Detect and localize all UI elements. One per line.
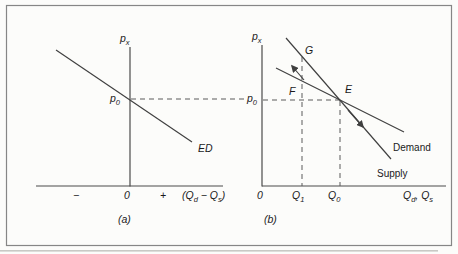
x-negative-label: − bbox=[73, 189, 79, 201]
textbook-figure: px p0 − 0 + (Qd − Qs) ED (a) px p0 G F E… bbox=[0, 0, 458, 254]
panel-a-p0-label: p0 bbox=[109, 92, 121, 107]
panel-a-origin-label: 0 bbox=[124, 189, 130, 201]
demand-curve-label: Demand bbox=[393, 142, 431, 153]
q1-tick-label: Q1 bbox=[292, 189, 304, 204]
panel-b-origin-label: 0 bbox=[257, 189, 263, 201]
panel-b-p0-label: p0 bbox=[246, 92, 258, 107]
point-g-label: G bbox=[305, 44, 313, 56]
figure-canvas: px p0 − 0 + (Qd − Qs) ED (a) px p0 G F E… bbox=[0, 0, 458, 254]
panel-b-y-axis-label: px bbox=[251, 30, 262, 45]
downward-adjustment-arrow bbox=[348, 110, 363, 127]
panel-b: px p0 G F E Demand Supply 0 Q1 Q0 Qd, Qs… bbox=[246, 30, 446, 225]
panel-a-y-axis-label: px bbox=[119, 32, 130, 47]
ed-curve-label: ED bbox=[198, 142, 213, 154]
excess-demand-curve bbox=[56, 50, 192, 142]
point-e-label: E bbox=[345, 83, 353, 95]
figure-border bbox=[7, 6, 452, 246]
q0-tick-label: Q0 bbox=[328, 189, 341, 204]
panel-a-x-axis-label: (Qd − Qs) bbox=[182, 189, 225, 204]
x-positive-label: + bbox=[160, 189, 166, 201]
panel-b-x-axis-label: Qd, Qs bbox=[403, 189, 433, 204]
page-rule bbox=[0, 250, 438, 252]
panel-a-tag: (a) bbox=[118, 213, 131, 225]
point-f-label: F bbox=[289, 85, 296, 97]
panel-a: px p0 − 0 + (Qd − Qs) ED (a) bbox=[36, 32, 245, 225]
supply-curve-label: Supply bbox=[377, 168, 408, 179]
panel-b-tag: (b) bbox=[264, 213, 277, 225]
